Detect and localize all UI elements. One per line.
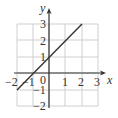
x-tick-label: −2	[5, 75, 18, 89]
y-tick-label: 1	[40, 50, 46, 64]
y-axis-label: y	[39, 1, 46, 15]
x-axis-label: x	[106, 73, 113, 87]
y-tick-label: −2	[33, 99, 46, 113]
y-tick-label: 2	[40, 34, 46, 48]
chart-container: x y −2 −1 0 1 2 3 3 2 1 −1 −2	[0, 0, 118, 118]
coordinate-plane: x y −2 −1 0 1 2 3 3 2 1 −1 −2	[0, 0, 118, 118]
x-tick-label: 1	[62, 75, 68, 89]
y-tick-label: −1	[33, 83, 46, 97]
grid-lines	[17, 24, 98, 106]
x-tick-label: 3	[94, 75, 100, 89]
axes	[14, 11, 104, 108]
x-tick-label: 2	[78, 75, 84, 89]
y-tick-label: 3	[40, 17, 46, 31]
